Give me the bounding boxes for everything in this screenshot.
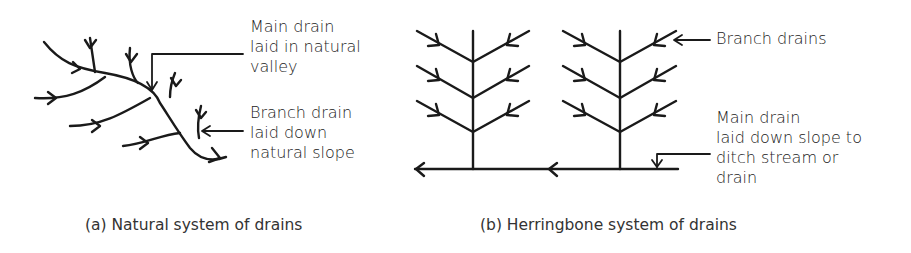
label-branch-drains: Branch drains <box>716 29 826 49</box>
label-line: ditch stream or <box>716 148 862 168</box>
label-line: natural slope <box>250 143 355 163</box>
label-branch-drain-slope: Branch drain laid down natural slope <box>250 103 355 163</box>
natural-drain-network <box>35 38 243 162</box>
label-line: laid in natural <box>250 37 361 57</box>
label-line: laid down slope to <box>716 128 862 148</box>
caption-panel-a: (a) Natural system of drains <box>85 216 302 234</box>
caption-panel-b: (b) Herringbone system of drains <box>480 216 737 234</box>
label-line: Main drain <box>716 108 862 128</box>
label-line: valley <box>250 57 361 77</box>
label-line: Branch drain <box>250 103 355 123</box>
label-line: Main drain <box>250 17 361 37</box>
herringbone-drain-network <box>415 31 710 176</box>
label-main-drain-ditch: Main drain laid down slope to ditch stre… <box>716 108 862 188</box>
label-line: drain <box>716 168 862 188</box>
label-line: Branch drains <box>716 29 826 49</box>
label-line: laid down <box>250 123 355 143</box>
label-main-drain-valley: Main drain laid in natural valley <box>250 17 361 77</box>
